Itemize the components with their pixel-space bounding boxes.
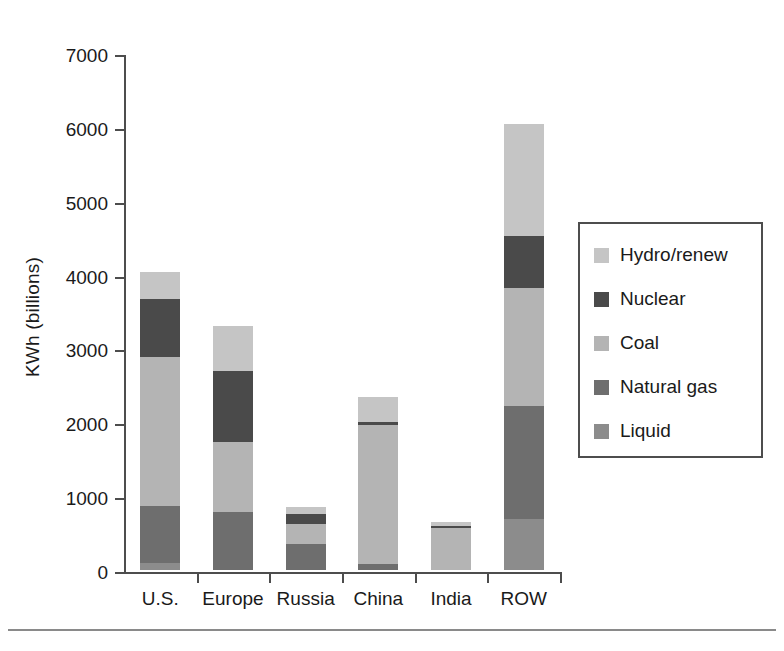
legend-item-natural-gas[interactable]: Natural gas xyxy=(594,376,717,398)
y-tick: 7000 xyxy=(115,55,124,57)
bar-segment-coal xyxy=(286,524,326,544)
bar-segment-hydro-renew xyxy=(358,397,398,421)
bar-segment-nuclear xyxy=(213,371,253,443)
y-tick: 5000 xyxy=(115,203,124,205)
legend-label: Coal xyxy=(620,332,659,354)
bar-segment-hydro-renew xyxy=(213,326,253,370)
x-tick-label: Europe xyxy=(202,588,263,610)
y-tick-label: 7000 xyxy=(66,45,108,67)
legend-item-hydro-renew[interactable]: Hydro/renew xyxy=(594,244,728,266)
bar-segment-natural-gas xyxy=(358,564,398,570)
legend-item-nuclear[interactable]: Nuclear xyxy=(594,288,685,310)
y-axis-line xyxy=(124,55,126,574)
x-tick-label: China xyxy=(354,588,404,610)
bar-segment-hydro-renew xyxy=(504,124,544,236)
bar-segment-nuclear xyxy=(431,526,471,527)
plot-area: 01000200030004000500060007000 U.S.Europe… xyxy=(124,55,560,572)
y-tick: 3000 xyxy=(115,350,124,352)
bar-segment-natural-gas xyxy=(213,512,253,570)
y-tick-label: 6000 xyxy=(66,119,108,141)
legend-swatch-icon xyxy=(594,424,609,439)
bar-segment-coal xyxy=(213,442,253,512)
bar-segment-coal xyxy=(431,528,471,570)
y-tick: 2000 xyxy=(115,424,124,426)
legend-label: Liquid xyxy=(620,420,671,442)
bar-segment-natural-gas xyxy=(286,544,326,570)
bar-segment-liquid xyxy=(140,563,180,570)
x-tick xyxy=(487,574,489,583)
bar-row xyxy=(504,124,544,570)
bar-segment-nuclear xyxy=(358,422,398,426)
x-tick xyxy=(269,574,271,583)
chart-figure: KWh (billions) 0100020003000400050006000… xyxy=(0,0,784,651)
x-tick-label: India xyxy=(430,588,471,610)
bar-segment-hydro-renew xyxy=(140,272,180,299)
y-tick-label: 0 xyxy=(97,562,108,584)
y-tick: 0 xyxy=(115,572,124,574)
legend-item-coal[interactable]: Coal xyxy=(594,332,659,354)
bar-u-s xyxy=(140,272,180,570)
x-tick xyxy=(415,574,417,583)
bar-segment-coal xyxy=(140,357,180,506)
y-tick-label: 4000 xyxy=(66,267,108,289)
legend-swatch-icon xyxy=(594,248,609,263)
y-tick-label: 5000 xyxy=(66,193,108,215)
x-tick xyxy=(560,574,562,583)
x-tick-label: ROW xyxy=(500,588,546,610)
legend-label: Nuclear xyxy=(620,288,685,310)
x-tick xyxy=(342,574,344,583)
bar-segment-coal xyxy=(504,288,544,406)
y-tick: 4000 xyxy=(115,277,124,279)
y-tick-label: 1000 xyxy=(66,488,108,510)
bar-europe xyxy=(213,326,253,570)
legend-swatch-icon xyxy=(594,380,609,395)
legend-label: Natural gas xyxy=(620,376,717,398)
bar-segment-coal xyxy=(358,425,398,564)
bar-segment-natural-gas xyxy=(504,406,544,519)
bottom-divider xyxy=(8,629,776,631)
x-tick xyxy=(197,574,199,583)
bar-russia xyxy=(286,506,326,570)
legend-swatch-icon xyxy=(594,292,609,307)
legend-label: Hydro/renew xyxy=(620,244,728,266)
y-tick-label: 3000 xyxy=(66,340,108,362)
y-axis-title: KWh (billions) xyxy=(22,212,44,422)
legend-item-liquid[interactable]: Liquid xyxy=(594,420,671,442)
chart-legend: Hydro/renewNuclearCoalNatural gasLiquid xyxy=(578,222,763,458)
bar-segment-natural-gas xyxy=(140,506,180,563)
x-tick-label: Russia xyxy=(277,588,335,610)
y-tick: 6000 xyxy=(115,129,124,131)
legend-swatch-icon xyxy=(594,336,609,351)
bar-segment-nuclear xyxy=(504,236,544,288)
bar-china xyxy=(358,397,398,570)
bar-segment-nuclear xyxy=(140,299,180,357)
bar-segment-nuclear xyxy=(286,514,326,524)
bar-segment-hydro-renew xyxy=(286,507,326,514)
x-tick-label: U.S. xyxy=(142,588,179,610)
y-tick: 1000 xyxy=(115,498,124,500)
bar-segment-liquid xyxy=(504,519,544,570)
bar-india xyxy=(431,522,471,570)
y-tick-label: 2000 xyxy=(66,414,108,436)
bar-segment-hydro-renew xyxy=(431,522,471,526)
